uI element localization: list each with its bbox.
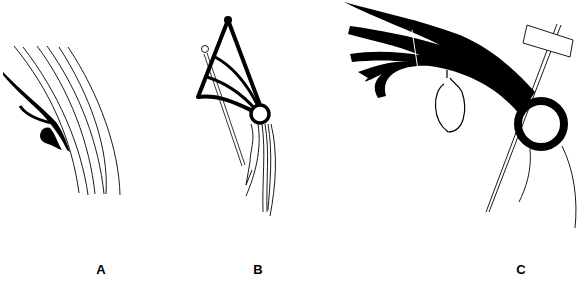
- figure-canvas: [0, 0, 582, 286]
- panel-c-wing-shape: [344, 2, 535, 115]
- panel-b-drawing: [198, 16, 275, 216]
- panel-label-b: B: [253, 262, 262, 277]
- panel-label-a: A: [96, 262, 105, 277]
- panel-a-wing-shape: [3, 72, 70, 152]
- panel-b-circle: [251, 105, 269, 123]
- panel-a-drawing: [3, 46, 120, 195]
- panel-label-c: C: [516, 262, 525, 277]
- panel-c-drawing: [344, 2, 576, 228]
